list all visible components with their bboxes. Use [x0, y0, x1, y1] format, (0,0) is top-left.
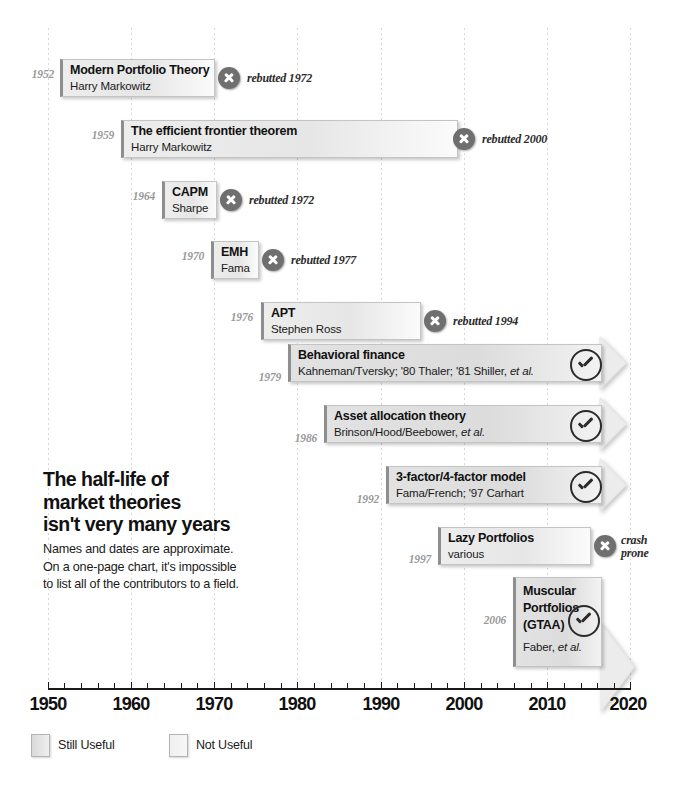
bar-behavioral-finance[interactable]: Behavioral finance Kahneman/Tversky; '80…: [288, 344, 602, 382]
axis-tick-1960: [131, 682, 132, 690]
axis-label-2010: 2010: [529, 694, 566, 715]
bar-authors: Brinson/Hood/Beebower, et al.: [334, 425, 485, 439]
axis-tick-1980: [297, 682, 298, 690]
bar-note: rebutted 1994: [453, 315, 518, 328]
x-axis-line: [48, 688, 631, 690]
bar-lazy-portfolios[interactable]: Lazy Portfolios various: [438, 527, 591, 565]
x-circle-icon: [220, 189, 242, 211]
axis-tick-minor: [364, 683, 365, 688]
axis-tick-minor: [614, 683, 615, 688]
bar-title: 3-factor/4-factor model: [396, 470, 526, 485]
gridline-2020: [630, 28, 631, 683]
axis-tick-minor: [114, 683, 115, 688]
bar-efficient-frontier-theorem[interactable]: The efficient frontier theorem Harry Mar…: [121, 120, 458, 158]
axis-tick-minor: [98, 683, 99, 688]
row-year-1986: 1986: [285, 432, 317, 444]
bar-authors: various: [448, 547, 484, 561]
bar-authors: Harry Markowitz: [131, 140, 212, 154]
axis-tick-minor: [497, 683, 498, 688]
axis-tick-minor: [64, 683, 65, 688]
bar-emh[interactable]: EMH Fama: [211, 241, 259, 279]
axis-tick-minor: [314, 683, 315, 688]
axis-tick-minor: [331, 683, 332, 688]
axis-tick-minor: [397, 683, 398, 688]
axis-tick-minor: [431, 683, 432, 688]
axis-tick-minor: [564, 683, 565, 688]
axis-tick-minor: [597, 683, 598, 688]
arrow-head-icon: [600, 397, 627, 451]
bar-apt[interactable]: APT Stephen Ross: [261, 302, 421, 340]
x-circle-icon: [424, 310, 446, 332]
axis-tick-minor: [347, 683, 348, 688]
row-year-1970: 1970: [172, 250, 204, 262]
axis-tick-2010: [547, 682, 548, 690]
arrow-head-icon: [600, 336, 627, 390]
axis-tick-minor: [481, 683, 482, 688]
axis-tick-2000: [464, 682, 465, 690]
bar-title: APT: [271, 306, 295, 321]
check-circle-icon: [570, 410, 602, 442]
axis-label-2000: 2000: [446, 694, 483, 715]
axis-tick-minor: [231, 683, 232, 688]
row-year-1979: 1979: [249, 371, 281, 383]
bar-title: The efficient frontier theorem: [131, 124, 297, 139]
bar-asset-allocation-theory[interactable]: Asset allocation theory Brinson/Hood/Bee…: [324, 405, 602, 443]
axis-tick-1950: [48, 682, 49, 690]
timeline-chart: 1952 Modern Portfolio Theory Harry Marko…: [0, 0, 682, 796]
row-year-1997: 1997: [399, 553, 431, 565]
x-circle-icon: [218, 67, 240, 89]
bar-authors: Sharpe: [172, 201, 208, 215]
axis-tick-minor: [247, 683, 248, 688]
row-year-1952: 1952: [22, 68, 54, 80]
bar-title: Behavioral finance: [298, 348, 405, 363]
bar-authors: Harry Markowitz: [70, 79, 151, 93]
axis-tick-minor: [197, 683, 198, 688]
legend-label-still-useful: Still Useful: [58, 738, 115, 752]
bar-authors: Kahneman/Tversky; '80 Thaler; '81 Shille…: [298, 364, 534, 378]
bar-title: Asset allocation theory: [334, 409, 466, 424]
bar-title: EMH: [221, 245, 248, 260]
bar-modern-portfolio-theory[interactable]: Modern Portfolio Theory Harry Markowitz: [60, 59, 215, 97]
bar-note: rebutted 1972: [247, 72, 312, 85]
bar-authors: Stephen Ross: [271, 322, 341, 336]
x-circle-icon: [453, 128, 475, 150]
row-year-1959: 1959: [82, 129, 114, 141]
axis-tick-minor: [164, 683, 165, 688]
bar-note: rebutted 2000: [482, 133, 547, 146]
axis-label-1960: 1960: [113, 694, 150, 715]
page-title: The half-life of market theories isn't v…: [43, 468, 293, 536]
legend-swatch-still-useful: [31, 734, 50, 757]
axis-label-1970: 1970: [196, 694, 233, 715]
axis-tick-1970: [214, 682, 215, 690]
bar-title: Modern Portfolio Theory: [70, 63, 209, 78]
bar-note: rebutted 1972: [249, 194, 314, 207]
axis-tick-minor: [281, 683, 282, 688]
x-circle-icon: [594, 535, 616, 557]
axis-tick-minor: [81, 683, 82, 688]
axis-tick-minor: [181, 683, 182, 688]
axis-tick-minor: [447, 683, 448, 688]
bar-title: CAPM: [172, 185, 208, 200]
axis-label-1980: 1980: [279, 694, 316, 715]
arrow-head-icon: [600, 458, 627, 512]
legend-swatch-not-useful: [169, 734, 188, 757]
legend-label-not-useful: Not Useful: [196, 738, 252, 752]
axis-tick-minor: [531, 683, 532, 688]
row-year-1964: 1964: [123, 190, 155, 202]
bar-capm[interactable]: CAPM Sharpe: [162, 181, 217, 219]
axis-tick-minor: [581, 683, 582, 688]
axis-tick-minor: [147, 683, 148, 688]
bar-authors: Fama/French; '97 Carhart: [396, 486, 524, 500]
axis-label-2020: 2020: [610, 694, 647, 715]
check-circle-icon: [570, 349, 602, 381]
bar-note: crash prone: [621, 534, 649, 559]
axis-tick-minor: [514, 683, 515, 688]
axis-label-1990: 1990: [363, 694, 400, 715]
axis-tick-minor: [414, 683, 415, 688]
axis-tick-minor: [264, 683, 265, 688]
check-circle-icon: [568, 605, 600, 637]
row-year-1976: 1976: [221, 311, 253, 323]
chart-note: Names and dates are approximate. On a on…: [43, 541, 308, 594]
bar-note: rebutted 1977: [291, 254, 356, 267]
bar-authors: Fama: [221, 261, 250, 275]
